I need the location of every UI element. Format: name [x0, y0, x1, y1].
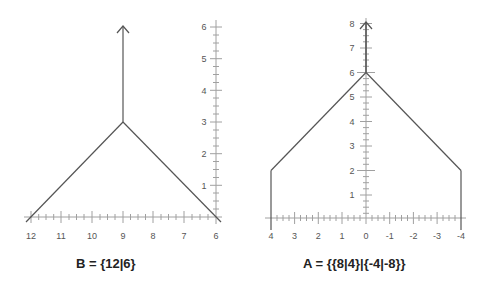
- diagram-a-y-tick-labels: 1 2 3 4 5 6 7 8: [349, 19, 354, 201]
- y-tick-label: 1: [349, 190, 354, 200]
- y-tick-label: 6: [201, 22, 206, 32]
- y-tick-label: 7: [349, 43, 354, 53]
- edge-right: [123, 122, 221, 222]
- diagram-b-y-tick-labels: 1 2 3 4 5 6: [201, 22, 206, 191]
- x-tick-label: 6: [213, 231, 218, 241]
- y-tick-label: 8: [349, 19, 354, 29]
- diagram-b-x-axis: [24, 211, 222, 223]
- diagram-a: 4 3 2 1 0 -1 -2 -3 -4 1 2 3 4 5 6 7 8: [265, 18, 466, 241]
- edge-right-diagonal: [366, 73, 461, 171]
- y-tick-label: 4: [349, 117, 354, 127]
- x-tick-label: -4: [457, 231, 465, 241]
- diagram-a-x-tick-labels: 4 3 2 1 0 -1 -2 -3 -4: [268, 231, 465, 241]
- y-tick-label: 2: [349, 166, 354, 176]
- edge-left: [26, 122, 123, 222]
- x-tick-label: 9: [120, 231, 125, 241]
- x-tick-label: -3: [433, 231, 441, 241]
- diagram-canvas: 12 11 10 9 8 7 6 1 2 3 4 5 6: [0, 0, 492, 294]
- y-tick-label: 3: [201, 117, 206, 127]
- y-tick-label: 6: [349, 68, 354, 78]
- x-tick-label: 11: [56, 231, 65, 241]
- x-tick-label: 4: [268, 231, 273, 241]
- diagram-b-x-tick-labels: 12 11 10 9 8 7 6: [26, 231, 219, 241]
- diagram-a-caption: A = {{8|4}|{-4|-8}}: [303, 256, 406, 271]
- y-tick-label: 3: [349, 141, 354, 151]
- x-tick-label: 2: [316, 231, 321, 241]
- diagram-b-graph-edges: [26, 26, 221, 222]
- x-tick-label: 7: [181, 231, 186, 241]
- diagram-b: 12 11 10 9 8 7 6 1 2 3 4 5 6: [24, 20, 222, 241]
- y-tick-label: 2: [201, 149, 206, 159]
- x-tick-label: 3: [292, 231, 297, 241]
- x-tick-label: 10: [87, 231, 97, 241]
- x-tick-label: 1: [339, 231, 344, 241]
- diagram-b-y-axis: [210, 20, 222, 224]
- y-tick-label: 5: [349, 92, 354, 102]
- y-tick-label: 1: [201, 181, 206, 191]
- y-tick-label: 4: [201, 86, 206, 96]
- x-tick-label: -1: [386, 231, 394, 241]
- x-tick-label: 8: [150, 231, 155, 241]
- x-tick-label: 0: [363, 231, 368, 241]
- x-tick-label: -2: [409, 231, 417, 241]
- x-tick-label: 12: [26, 231, 36, 241]
- y-tick-label: 5: [201, 54, 206, 64]
- diagram-b-caption: B = {12|6}: [76, 256, 136, 271]
